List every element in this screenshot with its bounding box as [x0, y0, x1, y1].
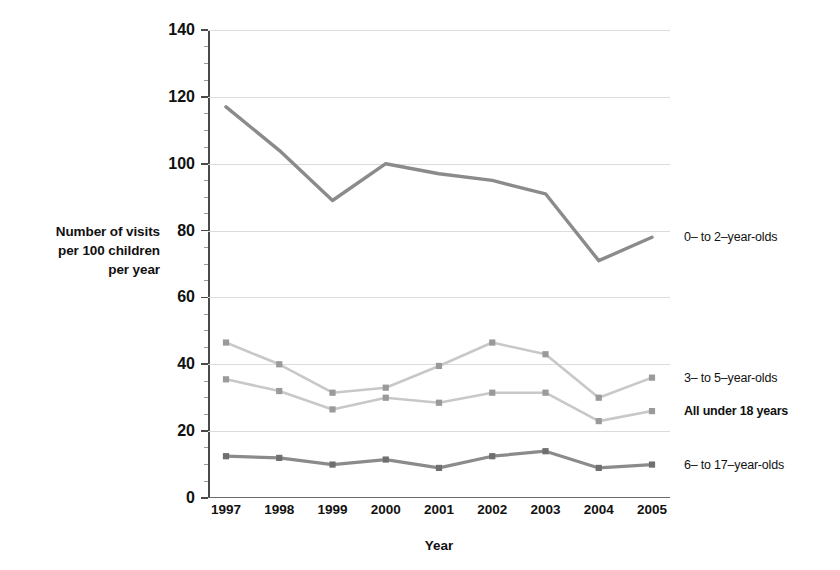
plot-area: 020406080100120140 199719981999200020012…: [208, 30, 670, 498]
data-point-marker: [329, 461, 335, 467]
data-point-marker: [489, 339, 495, 345]
y-axis-label: 40: [177, 355, 195, 373]
data-point-marker: [649, 375, 655, 381]
data-point-marker: [542, 390, 548, 396]
series-layer: [208, 30, 670, 498]
y-axis-label: 140: [168, 21, 195, 39]
data-point-marker: [436, 400, 442, 406]
x-axis-label: 1998: [264, 502, 294, 517]
data-point-marker: [436, 465, 442, 471]
x-axis-label: 2001: [424, 502, 454, 517]
data-point-marker: [223, 339, 229, 345]
y-axis-label: 20: [177, 422, 195, 440]
series-label: 0– to 2–year-olds: [684, 230, 777, 244]
data-point-marker: [383, 385, 389, 391]
data-point-marker: [596, 465, 602, 471]
series-2: [223, 339, 655, 400]
y-axis-tick: [201, 430, 208, 432]
data-point-marker: [542, 351, 548, 357]
data-point-marker: [329, 390, 335, 396]
series-1: [226, 107, 652, 261]
data-point-marker: [596, 395, 602, 401]
x-axis-label: 2005: [637, 502, 667, 517]
data-point-marker: [276, 361, 282, 367]
chart-root: Number of visits per 100 children per ye…: [0, 0, 840, 570]
data-point-marker: [223, 453, 229, 459]
series-label: 3– to 5–year-olds: [684, 371, 777, 385]
data-point-marker: [276, 388, 282, 394]
x-axis-label: 1997: [211, 502, 241, 517]
data-point-marker: [436, 363, 442, 369]
data-point-marker: [329, 406, 335, 412]
series-3: [223, 376, 655, 424]
y-axis-title-line-1: Number of visits: [8, 222, 160, 241]
x-axis-label: 2002: [477, 502, 507, 517]
data-point-marker: [223, 376, 229, 382]
data-point-marker: [542, 448, 548, 454]
y-axis-label: 0: [186, 489, 195, 507]
y-axis-tick: [201, 29, 208, 31]
series-line: [226, 107, 652, 261]
data-point-marker: [649, 408, 655, 414]
series-4: [223, 448, 655, 471]
series-label: 6– to 17–year-olds: [684, 458, 784, 472]
data-point-marker: [489, 390, 495, 396]
y-axis-tick: [201, 363, 208, 365]
x-axis-label: 2004: [584, 502, 614, 517]
y-axis-tick: [201, 163, 208, 165]
y-axis-title-line-2: per 100 children: [8, 241, 160, 260]
x-axis-title: Year: [208, 538, 670, 553]
y-axis-title-line-3: per year: [8, 260, 160, 279]
data-point-marker: [383, 395, 389, 401]
series-line: [226, 343, 652, 398]
y-axis-label: 100: [168, 155, 195, 173]
y-axis-label: 60: [177, 288, 195, 306]
series-label: All under 18 years: [684, 404, 788, 418]
data-point-marker: [649, 461, 655, 467]
data-point-marker: [276, 455, 282, 461]
y-axis-tick: [201, 297, 208, 299]
x-axis-label: 1999: [317, 502, 347, 517]
data-point-marker: [383, 456, 389, 462]
y-axis-title: Number of visits per 100 children per ye…: [8, 222, 160, 279]
y-axis-label: 80: [177, 222, 195, 240]
y-axis-tick: [201, 497, 208, 499]
data-point-marker: [596, 418, 602, 424]
data-point-marker: [489, 453, 495, 459]
y-axis-tick: [201, 96, 208, 98]
y-axis-tick: [201, 230, 208, 232]
y-axis-label: 120: [168, 88, 195, 106]
x-axis-label: 2000: [371, 502, 401, 517]
x-axis-label: 2003: [530, 502, 560, 517]
